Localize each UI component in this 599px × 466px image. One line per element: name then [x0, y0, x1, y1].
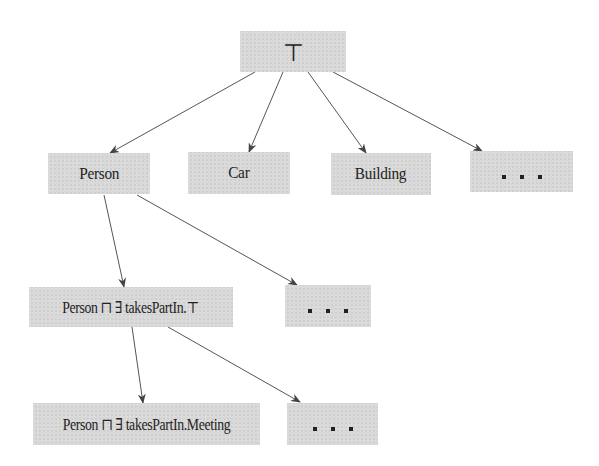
ellipsis-dots-icon — [502, 175, 542, 179]
edge-arrow-top-to-car — [249, 72, 283, 152]
node-label: Building — [355, 164, 406, 184]
node-person-takes-part-in-top: Person ⊓ ∃ takesPartIn.⊤ — [29, 287, 233, 327]
node-ellipsis-level1 — [470, 151, 573, 192]
node-ellipsis-level3 — [287, 403, 378, 445]
edge-arrow-top-to-more_level1 — [333, 72, 482, 151]
edge-arrow-person_takes_part_in_top-to-more_level3 — [168, 327, 300, 402]
node-label: Person ⊓ ∃ takesPartIn.⊤ — [63, 298, 200, 317]
node-label: Person ⊓ ∃ takesPartIn.Meeting — [63, 415, 231, 434]
node-top-concept: ⊤ — [240, 31, 346, 72]
node-person-takes-part-in-meeting: Person ⊓ ∃ takesPartIn.Meeting — [33, 403, 260, 445]
top-symbol: ⊤ — [283, 39, 304, 67]
edge-group — [104, 72, 482, 403]
edge-arrow-top-to-building — [308, 72, 366, 153]
edge-arrow-top-to-person — [110, 72, 255, 153]
node-car: Car — [188, 152, 290, 194]
node-ellipsis-level2 — [285, 285, 371, 327]
node-person: Person — [48, 153, 150, 194]
concept-hierarchy-diagram: ⊤ Person Car Building Person ⊓ ∃ takesPa… — [0, 0, 599, 466]
edge-arrow-person-to-more_level2 — [137, 195, 297, 285]
node-label: Person — [79, 164, 119, 184]
ellipsis-dots-icon — [308, 309, 348, 313]
ellipsis-dots-icon — [313, 427, 353, 431]
edge-arrow-person-to-person_takes_part_in_top — [104, 195, 124, 287]
node-label: Car — [228, 163, 249, 183]
edge-arrow-person_takes_part_in_top-to-person_takes_part_in_meeting — [132, 327, 143, 403]
node-building: Building — [331, 153, 431, 195]
